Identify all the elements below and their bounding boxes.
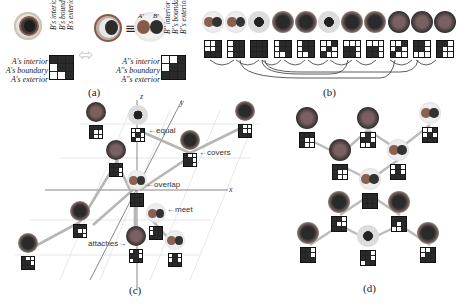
intersection-matrix: [331, 216, 347, 232]
intersection-matrix: [420, 247, 436, 263]
region-diagram: [296, 107, 318, 129]
region-diagram: [357, 107, 379, 129]
region-diagram: [328, 191, 350, 213]
region-diagram: [297, 222, 319, 244]
region-diagram: [417, 222, 439, 244]
region-diagram: [387, 139, 409, 161]
intersection-matrix: [360, 132, 376, 148]
region-diagram: [357, 225, 379, 247]
intersection-matrix: [391, 216, 407, 232]
intersection-matrix: [300, 247, 316, 263]
caption-d: (d): [363, 282, 376, 294]
intersection-matrix: [299, 132, 315, 148]
intersection-matrix: [362, 193, 378, 209]
region-diagram: [419, 102, 441, 124]
region-diagram: [329, 139, 351, 161]
intersection-matrix: [390, 164, 406, 180]
intersection-matrix: [332, 164, 348, 180]
intersection-matrix: [422, 127, 438, 143]
intersection-matrix: [360, 250, 376, 266]
region-diagram: [359, 168, 381, 190]
region-diagram: [388, 191, 410, 213]
